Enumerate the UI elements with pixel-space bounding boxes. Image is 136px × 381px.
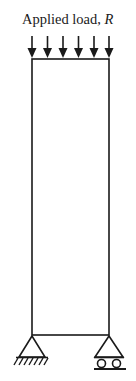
applied-load-label: Applied load, R bbox=[22, 11, 114, 27]
roller-wheel-icon bbox=[113, 360, 121, 368]
ground-hatch-icon bbox=[14, 358, 48, 365]
roller-wheel-icon bbox=[98, 360, 106, 368]
pin-support bbox=[14, 336, 48, 365]
load-arrows bbox=[28, 36, 114, 58]
down-arrow-icon bbox=[74, 36, 83, 58]
applied-load-text: Applied load, bbox=[22, 11, 105, 27]
roller-support bbox=[94, 336, 126, 369]
column-body bbox=[32, 59, 109, 335]
pin-triangle bbox=[19, 336, 45, 357]
down-arrow-icon bbox=[43, 36, 52, 58]
down-arrow-icon bbox=[28, 36, 37, 58]
column-diagram: Applied load, R bbox=[0, 0, 136, 381]
down-arrow-icon bbox=[105, 36, 114, 58]
load-variable: R bbox=[104, 11, 114, 27]
down-arrow-icon bbox=[59, 36, 68, 58]
roller-triangle bbox=[95, 336, 123, 357]
down-arrow-icon bbox=[90, 36, 99, 58]
